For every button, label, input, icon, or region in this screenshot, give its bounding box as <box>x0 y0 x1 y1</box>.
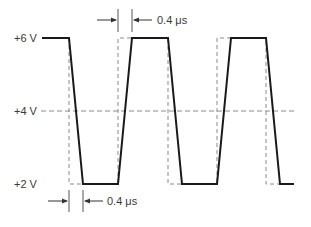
label-fall-time: 0.4 μs <box>157 14 187 26</box>
label-high-voltage: +6 V <box>14 32 37 44</box>
arrow-right-icon <box>111 18 117 23</box>
arrow-left-icon <box>133 18 139 23</box>
label-low-voltage: +2 V <box>14 178 37 190</box>
waveform-diagram <box>0 0 311 227</box>
label-threshold-voltage: +4 V <box>14 105 37 117</box>
arrow-right-icon <box>62 199 68 204</box>
label-rise-time: 0.4 μs <box>107 195 137 207</box>
arrow-left-icon <box>84 199 90 204</box>
